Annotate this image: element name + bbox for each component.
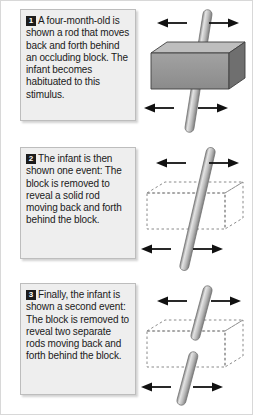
- occluding-block-1: [151, 42, 245, 89]
- arrow-left-bottom-3: [141, 383, 171, 392]
- rod-upper-3: [190, 285, 213, 341]
- panel-2: 2The infant is then shown one event: The…: [1, 141, 253, 276]
- arrow-left-top-2: [156, 159, 186, 168]
- illustration-1: [141, 3, 251, 138]
- arrow-right-top-1: [209, 19, 239, 28]
- arrow-left-bottom-1: [144, 104, 174, 113]
- rod-lower-3: [176, 351, 199, 406]
- step-badge-1: 1: [26, 16, 36, 26]
- step-badge-3: 3: [26, 290, 36, 300]
- caption-card-2: 2The infant is then shown one event: The…: [20, 147, 136, 259]
- arrow-left-top-1: [157, 19, 187, 28]
- caption-text-2: 2The infant is then shown one event: The…: [26, 153, 131, 227]
- caption-body-2: The infant is then shown one event: The …: [26, 153, 122, 225]
- caption-card-3: 3Finally, the infant is shown a second e…: [20, 283, 136, 395]
- rod-full-2: [179, 147, 216, 272]
- arrow-left-bottom-2: [141, 245, 171, 254]
- figure-container: 1A four-month-old is shown a rod that mo…: [0, 0, 253, 415]
- panel-1: 1A four-month-old is shown a rod that mo…: [1, 3, 253, 138]
- caption-text-1: 1A four-month-old is shown a rod that mo…: [26, 15, 131, 101]
- caption-body-1: A four-month-old is shown a rod that mov…: [26, 15, 129, 100]
- caption-body-3: Finally, the infant is shown a second ev…: [26, 289, 129, 361]
- illustration-3: [141, 277, 251, 412]
- arrow-left-top-3: [157, 297, 187, 306]
- arrow-right-bottom-2: [193, 245, 223, 254]
- arrow-right-bottom-1: [198, 104, 228, 113]
- step-badge-2: 2: [26, 154, 36, 164]
- caption-card-1: 1A four-month-old is shown a rod that mo…: [20, 9, 136, 121]
- illustration-2: [141, 141, 251, 276]
- caption-text-3: 3Finally, the infant is shown a second e…: [26, 289, 131, 363]
- arrow-right-bottom-3: [193, 383, 223, 392]
- arrow-right-top-3: [211, 297, 241, 306]
- panel-3: 3Finally, the infant is shown a second e…: [1, 277, 253, 412]
